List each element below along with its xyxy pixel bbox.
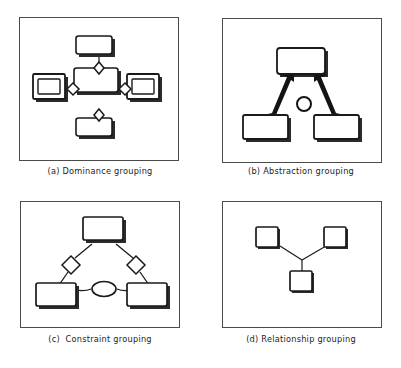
- panel-c-diagram: [20, 201, 180, 328]
- box-left-nested: [33, 74, 65, 99]
- box-bottom: [290, 271, 312, 291]
- panel-a-diagram: [19, 17, 179, 161]
- box-top: [83, 217, 123, 240]
- panel-abstraction-grouping: [222, 18, 382, 163]
- link-top-right-upper: [116, 244, 133, 258]
- box-bottom: [76, 118, 112, 136]
- panel-d-links: [280, 246, 326, 273]
- box-bottom-left: [243, 115, 288, 139]
- panel-constraint-grouping: [20, 201, 180, 328]
- panel-b-diagram: [222, 18, 382, 163]
- panel-d-diagram: [222, 201, 382, 328]
- caption-panel-b: (b) Abstraction grouping: [201, 166, 401, 176]
- box-right-nested: [127, 74, 159, 99]
- box-top-right: [324, 227, 346, 247]
- junction-ellipse: [92, 282, 116, 297]
- link-top-left-upper: [75, 244, 92, 258]
- box-top: [277, 48, 325, 74]
- caption-panel-c: (c) Constraint grouping: [0, 334, 200, 344]
- panel-relationship-grouping: [222, 201, 382, 328]
- box-bottom-right: [127, 283, 167, 306]
- diamond-right: [127, 256, 145, 274]
- panel-dominance-grouping: [19, 17, 179, 161]
- link-top-right-to-junction: [302, 246, 326, 260]
- caption-panel-d: (d) Relationship grouping: [201, 334, 401, 344]
- box-bottom-left: [36, 283, 76, 306]
- figure-four-grouping-diagrams: (a) Dominance grouping: [0, 0, 401, 368]
- box-center: [74, 68, 118, 92]
- caption-panel-a: (a) Dominance grouping: [0, 166, 200, 176]
- link-top-left-to-junction: [280, 246, 302, 260]
- junction-circle: [297, 97, 311, 111]
- box-bottom-right: [314, 115, 359, 139]
- diamond-left: [62, 256, 80, 274]
- box-top-left: [256, 227, 278, 247]
- box-top: [76, 36, 112, 54]
- panel-c-diamonds: [62, 256, 145, 274]
